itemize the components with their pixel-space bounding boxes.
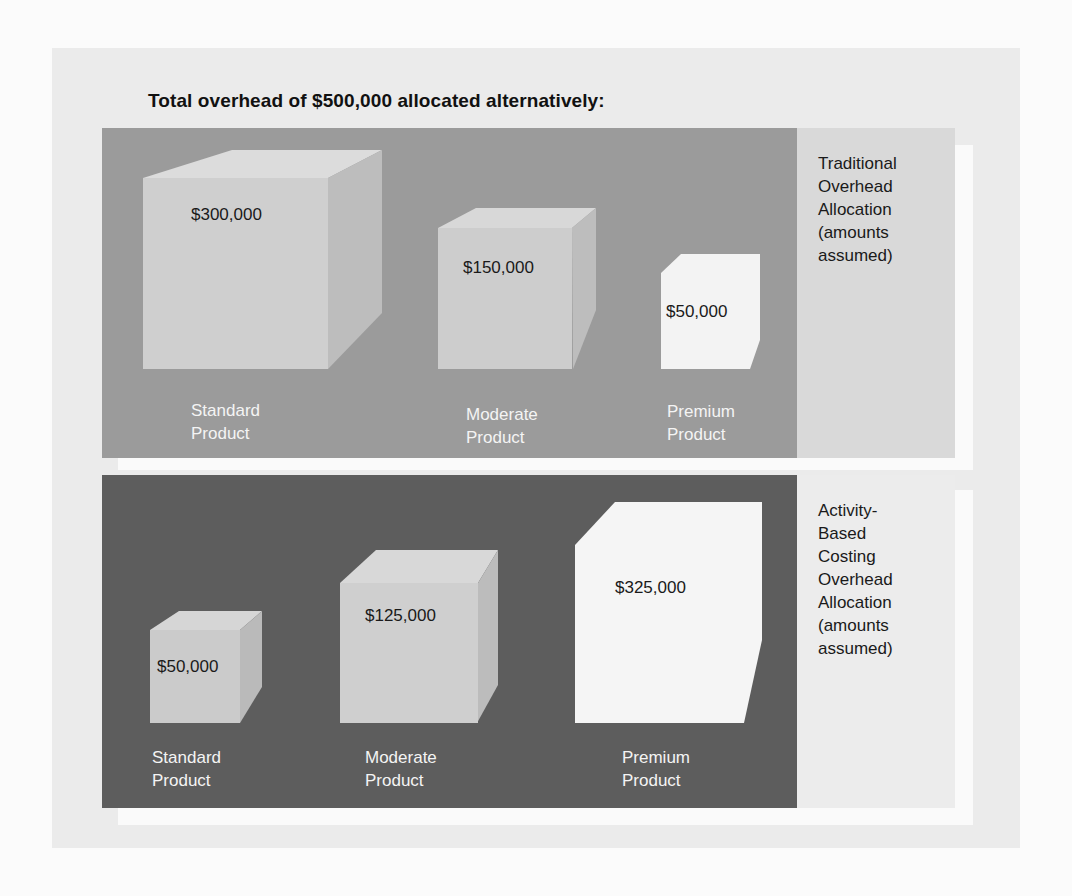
cube-traditional-standard bbox=[143, 150, 382, 369]
abc-moderate-label: Moderate Product bbox=[365, 746, 437, 792]
traditional-moderate-label: Moderate Product bbox=[466, 403, 538, 449]
abc-moderate-amount: $125,000 bbox=[365, 606, 436, 626]
traditional-moderate-amount: $150,000 bbox=[463, 258, 534, 278]
traditional-standard-amount: $300,000 bbox=[191, 205, 262, 225]
traditional-premium-label: Premium Product bbox=[667, 400, 735, 446]
abc-standard-label: Standard Product bbox=[152, 746, 221, 792]
traditional-premium-amount: $50,000 bbox=[666, 302, 727, 322]
cube-traditional-moderate bbox=[438, 208, 596, 369]
traditional-standard-label: Standard Product bbox=[191, 399, 260, 445]
abc-standard-amount: $50,000 bbox=[157, 657, 218, 677]
cube-abc-premium bbox=[575, 502, 762, 723]
abc-premium-amount: $325,000 bbox=[615, 578, 686, 598]
abc-premium-label: Premium Product bbox=[622, 746, 690, 792]
cube-abc-moderate bbox=[340, 550, 498, 723]
